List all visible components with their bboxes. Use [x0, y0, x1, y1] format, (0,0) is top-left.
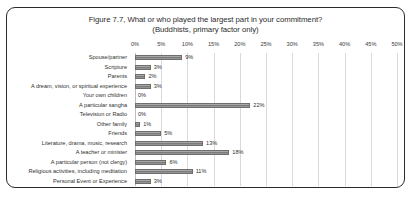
x-tick-label: 50% — [391, 41, 402, 47]
x-tick-label: 5% — [157, 41, 165, 47]
bar-row: Television or Radio0% — [7, 110, 417, 120]
x-tick-label: 25% — [260, 41, 271, 47]
chart-title: Figure 7.7, What or who played the large… — [7, 15, 404, 25]
bar-track: 0% — [135, 91, 397, 101]
bar-value-label: 6% — [169, 158, 177, 168]
bar-row: Parents2% — [7, 72, 417, 82]
x-tick-label: 45% — [365, 41, 376, 47]
bar-value-label: 0% — [138, 110, 146, 120]
bar — [135, 131, 161, 136]
bar — [135, 65, 151, 70]
bar-value-label: 0% — [138, 91, 146, 101]
bar-track: 13% — [135, 139, 397, 149]
bar-row: Your own children0% — [7, 91, 417, 101]
bar-track: 5% — [135, 129, 397, 139]
category-label: Scripture — [105, 63, 127, 73]
x-axis-tick-labels: 0%5%10%15%20%25%30%35%40%45%50% — [135, 41, 397, 52]
bar-row: Religious activities, including meditati… — [7, 167, 417, 177]
bar-rows: Spouse/partner9%Scripture3%Parents2%A dr… — [7, 53, 417, 186]
category-label: Other family — [97, 120, 127, 130]
bar-value-label: 3% — [154, 82, 162, 92]
bar-track: 3% — [135, 63, 397, 73]
category-label: A particular person (not clergy) — [51, 158, 127, 168]
category-label: Spouse/partner — [89, 53, 127, 63]
bar-track: 6% — [135, 158, 397, 168]
bar-row: A particular person (not clergy)6% — [7, 158, 417, 168]
bar-row: Literature, drama, music, research13% — [7, 139, 417, 149]
bar-track: 0% — [135, 110, 397, 120]
category-label: Parents — [108, 72, 127, 82]
bar-value-label: 3% — [154, 63, 162, 73]
bar-track: 3% — [135, 82, 397, 92]
bar-value-label: 3% — [154, 177, 162, 187]
chart-subtitle: (Buddhists, primary factor only) — [7, 25, 404, 35]
x-tick-label: 10% — [182, 41, 193, 47]
bar — [135, 103, 250, 108]
x-tick-label: 35% — [313, 41, 324, 47]
category-label: A dream, vision, or spiritual experience — [31, 82, 127, 92]
bar-track: 22% — [135, 101, 397, 111]
bar-value-label: 9% — [185, 53, 193, 63]
category-label: A particular sangha — [79, 101, 127, 111]
bar — [135, 55, 182, 60]
x-tick-label: 20% — [234, 41, 245, 47]
bar-track: 3% — [135, 177, 397, 187]
x-tick-label: 30% — [287, 41, 298, 47]
bar — [135, 160, 166, 165]
bar-row: Scripture3% — [7, 63, 417, 73]
bar-track: 2% — [135, 72, 397, 82]
bar-value-label: 22% — [253, 101, 264, 111]
bar — [135, 74, 145, 79]
bar — [135, 84, 151, 89]
bar-row: Spouse/partner9% — [7, 53, 417, 63]
chart-frame: Figure 7.7, What or who played the large… — [6, 7, 405, 188]
bar-value-label: 1% — [143, 120, 151, 130]
x-tick-label: 0% — [131, 41, 139, 47]
bar — [135, 141, 203, 146]
bar — [135, 169, 193, 174]
bar-value-label: 5% — [164, 129, 172, 139]
bar-row: Other family1% — [7, 120, 417, 130]
bar — [135, 150, 229, 155]
category-label: Literature, drama, music, research — [42, 139, 127, 149]
x-tick-label: 40% — [339, 41, 350, 47]
bar-track: 18% — [135, 148, 397, 158]
category-label: Friends — [108, 129, 127, 139]
bar — [135, 122, 140, 127]
bar-row: A dream, vision, or spiritual experience… — [7, 82, 417, 92]
bar-row: Friends5% — [7, 129, 417, 139]
bar-value-label: 11% — [196, 167, 207, 177]
category-label: Television or Radio — [80, 110, 127, 120]
bar-row: A teacher or minister18% — [7, 148, 417, 158]
bar-track: 9% — [135, 53, 397, 63]
bar-value-label: 2% — [148, 72, 156, 82]
bar-value-label: 18% — [232, 148, 243, 158]
category-label: Religious activities, including meditati… — [28, 167, 127, 177]
category-label: Personal Event or Experience — [53, 177, 127, 187]
category-label: A teacher or minister — [76, 148, 127, 158]
bar-track: 1% — [135, 120, 397, 130]
category-label: Your own children — [83, 91, 127, 101]
bar — [135, 179, 151, 184]
x-tick-label: 15% — [208, 41, 219, 47]
bar-row: A particular sangha22% — [7, 101, 417, 111]
bar-row: Personal Event or Experience3% — [7, 177, 417, 187]
bar-value-label: 13% — [206, 139, 217, 149]
bar-track: 11% — [135, 167, 397, 177]
chart-title-block: Figure 7.7, What or who played the large… — [7, 15, 404, 35]
